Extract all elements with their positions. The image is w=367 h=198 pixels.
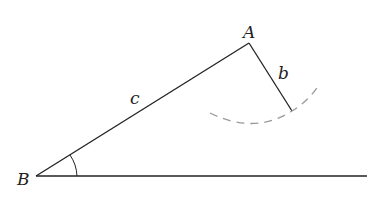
side-c — [36, 43, 249, 176]
label-b-vertex: B — [16, 169, 30, 189]
dashed-arc — [210, 83, 320, 124]
label-side-b: b — [278, 63, 289, 83]
label-side-c: c — [130, 88, 140, 108]
label-a: A — [241, 22, 255, 42]
angle-b-arc — [70, 155, 77, 176]
triangle-diagram: A B b c — [0, 0, 367, 198]
